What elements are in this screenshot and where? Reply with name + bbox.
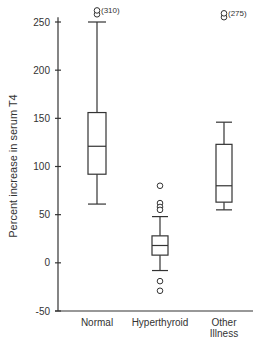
box-other-illness: (275): [216, 9, 247, 210]
box-hyperthyroid: [152, 183, 168, 294]
y-tick-label: 0: [44, 257, 50, 268]
box-normal: (310): [88, 6, 120, 204]
outlier-annotation: (310): [101, 6, 120, 15]
category-label: Other: [211, 317, 237, 328]
category-label: Hyperthyroid: [132, 317, 189, 328]
outlier-annotation: (275): [228, 9, 247, 18]
box-plot-chart: -50050100150200250 (310)(275) NormalHype…: [0, 0, 273, 347]
outlier-point: [157, 278, 163, 284]
outlier-point: [157, 207, 163, 213]
category-label: Normal: [81, 317, 113, 328]
y-tick-label: 200: [33, 65, 50, 76]
outlier-point: [157, 288, 163, 294]
x-axis-category-labels: NormalHyperthyroidOtherIllness: [81, 317, 238, 339]
y-tick-label: -50: [36, 306, 51, 317]
category-label: Illness: [210, 328, 238, 339]
outlier-point: [157, 183, 163, 189]
y-tick-label: 150: [33, 113, 50, 124]
boxes: (310)(275): [88, 6, 247, 293]
y-axis-ticks: -50050100150200250: [33, 17, 61, 317]
outlier-point: [221, 11, 227, 17]
iqr-box: [88, 113, 106, 175]
iqr-box: [216, 144, 232, 202]
y-tick-label: 50: [39, 209, 51, 220]
y-tick-label: 100: [33, 161, 50, 172]
y-tick-label: 250: [33, 17, 50, 28]
outlier-point: [94, 8, 100, 14]
y-axis-label: Percent increase in serum T4: [7, 94, 19, 237]
axes: [55, 17, 253, 311]
